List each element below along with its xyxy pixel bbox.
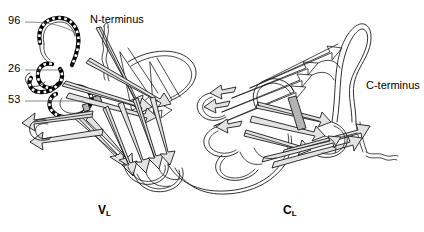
n-terminus-label: N-terminus [90,14,144,25]
protein-ribbon-figure: .ln{fill:none;stroke:#1a1a1a;stroke-widt… [0,0,424,232]
cl-domain-label: CL [283,204,297,216]
residue-label-53: 53 [8,94,21,105]
residue-label-26: 26 [8,63,21,74]
vl-domain-label: VL [98,204,111,216]
cl-domain-letter: C [283,203,292,217]
ribbon-diagram-svg: .ln{fill:none;stroke:#1a1a1a;stroke-widt… [0,0,424,232]
residue-label-96: 96 [8,15,21,26]
cl-domain-subscript: L [292,209,297,218]
vl-domain-letter: V [98,203,106,217]
vl-domain-subscript: L [106,209,111,218]
c-terminus-label: C-terminus [366,80,420,91]
